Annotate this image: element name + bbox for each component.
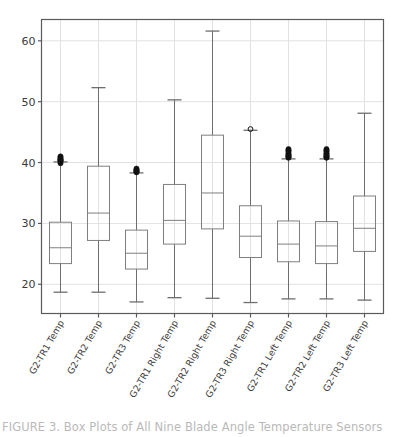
outlier-point: [324, 151, 329, 156]
y-tick-label: 20: [22, 278, 36, 291]
outlier-point: [324, 147, 329, 152]
y-tick-label: 40: [22, 157, 36, 170]
outlier-point: [58, 157, 63, 162]
outlier-point: [134, 168, 139, 173]
outlier-point: [286, 147, 291, 152]
figure-background: [0, 0, 408, 437]
figure-caption-clip: FIGURE 3. Box Plots of All Nine Blade An…: [0, 421, 408, 437]
outlier-point: [286, 152, 291, 157]
figure-container: 2030405060 G2-TR1 TempG2-TR2 TempG2-TR3 …: [0, 0, 408, 437]
y-tick-label: 60: [22, 35, 36, 48]
box-plot-chart: 2030405060 G2-TR1 TempG2-TR2 TempG2-TR3 …: [0, 0, 408, 437]
y-tick-label: 50: [22, 96, 36, 109]
y-tick-label: 30: [22, 217, 36, 230]
figure-caption: FIGURE 3. Box Plots of All Nine Blade An…: [2, 421, 382, 434]
